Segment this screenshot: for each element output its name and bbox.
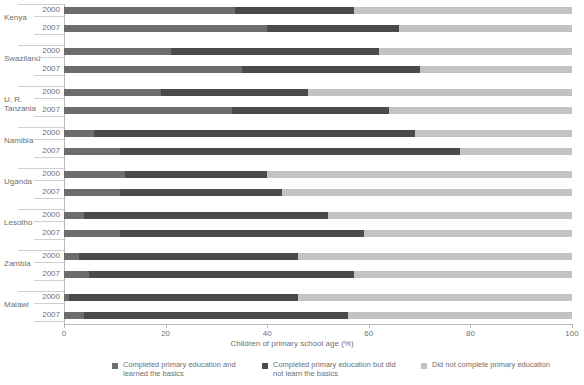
bar-segment-completed-learned[interactable] [64,189,120,196]
stacked-bar[interactable] [64,212,572,219]
bar-segment-completed-not-learned[interactable] [79,253,297,260]
stacked-bar[interactable] [64,7,572,14]
year-label: 2000 [34,5,60,14]
bar-segment-did-not-complete[interactable] [354,271,572,278]
bar-segment-completed-learned[interactable] [64,312,84,319]
chart-row: 2000 [0,291,584,309]
chart-row: 2007 [0,104,584,122]
bar-segment-completed-learned[interactable] [64,212,84,219]
year-underline [34,98,64,99]
bar-segment-did-not-complete[interactable] [399,25,572,32]
bar-segment-completed-not-learned[interactable] [69,294,298,301]
bar-segment-completed-learned[interactable] [64,48,171,55]
bar-segment-did-not-complete[interactable] [389,107,572,114]
bar-segment-did-not-complete[interactable] [298,253,572,260]
bar-segment-did-not-complete[interactable] [354,7,572,14]
bar-segment-did-not-complete[interactable] [298,294,572,301]
legend-swatch-icon [112,363,118,369]
stacked-bar[interactable] [64,312,572,319]
bar-segment-completed-learned[interactable] [64,107,232,114]
bar-segment-did-not-complete[interactable] [308,89,572,96]
bar-segment-completed-learned[interactable] [64,271,89,278]
bar-segment-completed-learned[interactable] [64,148,120,155]
bar-segment-completed-learned[interactable] [64,25,267,32]
chart-row: 2000 [0,209,584,227]
bar-segment-completed-not-learned[interactable] [125,171,267,178]
stacked-bar[interactable] [64,130,572,137]
year-label: 2000 [34,292,60,301]
bar-segment-completed-not-learned[interactable] [120,230,364,237]
bar-segment-completed-not-learned[interactable] [94,130,414,137]
bar-segment-completed-not-learned[interactable] [84,312,348,319]
year-label: 2007 [34,105,60,114]
year-underline [34,75,64,76]
year-label: 2000 [34,46,60,55]
bar-segment-completed-not-learned[interactable] [171,48,379,55]
year-underline [34,34,64,35]
legend-swatch-icon [262,363,268,369]
x-tick [572,325,573,328]
country-group: Swaziland20002007 [0,45,584,81]
country-group: Zambia20002007 [0,250,584,286]
chart-row: 2007 [0,268,584,286]
bar-segment-completed-not-learned[interactable] [89,271,353,278]
x-axis-title: Children of primary school age (%) [0,339,584,348]
bar-segment-completed-not-learned[interactable] [235,7,354,14]
stacked-bar[interactable] [64,171,572,178]
bar-segment-did-not-complete[interactable] [364,230,572,237]
stacked-bar[interactable] [64,25,572,32]
country-group: Namibia20002007 [0,127,584,163]
bar-segment-completed-not-learned[interactable] [120,189,283,196]
bar-segment-completed-learned[interactable] [64,7,235,14]
bar-segment-completed-not-learned[interactable] [232,107,389,114]
chart-row: 2007 [0,227,584,245]
bar-segment-completed-not-learned[interactable] [84,212,328,219]
bar-segment-did-not-complete[interactable] [379,48,572,55]
bar-segment-did-not-complete[interactable] [282,189,572,196]
year-label: 2007 [34,146,60,155]
bar-segment-completed-learned[interactable] [64,89,161,96]
bar-segment-did-not-complete[interactable] [267,171,572,178]
stacked-bar[interactable] [64,89,572,96]
bar-segment-completed-not-learned[interactable] [267,25,399,32]
stacked-bar[interactable] [64,189,572,196]
stacked-bar[interactable] [64,66,572,73]
year-underline [34,180,64,181]
bar-segment-completed-learned[interactable] [64,130,94,137]
bar-segment-completed-learned[interactable] [64,66,242,73]
year-label: 2000 [34,87,60,96]
bar-segment-completed-learned[interactable] [64,230,120,237]
stacked-bar[interactable] [64,48,572,55]
year-underline [34,57,64,58]
bar-segment-did-not-complete[interactable] [420,66,572,73]
year-label: 2000 [34,169,60,178]
year-label: 2000 [34,251,60,260]
year-underline [34,262,64,263]
bar-segment-did-not-complete[interactable] [348,312,572,319]
stacked-bar[interactable] [64,230,572,237]
year-label: 2007 [34,228,60,237]
x-tick-label: 40 [252,329,282,338]
bar-segment-completed-not-learned[interactable] [120,148,460,155]
legend-label: Did not complete primary education [432,360,557,369]
chart-row: 2007 [0,22,584,40]
x-tick [64,325,65,328]
stacked-bar[interactable] [64,148,572,155]
bar-segment-completed-learned[interactable] [64,171,125,178]
year-label: 2007 [34,23,60,32]
bar-segment-completed-not-learned[interactable] [161,89,308,96]
year-label: 2007 [34,64,60,73]
stacked-bar[interactable] [64,294,572,301]
year-label: 2000 [34,210,60,219]
bar-segment-completed-learned[interactable] [64,253,79,260]
bar-segment-did-not-complete[interactable] [460,148,572,155]
bar-segment-did-not-complete[interactable] [328,212,572,219]
chart-row: 2000 [0,45,584,63]
chart-row: 2007 [0,63,584,81]
stacked-bar[interactable] [64,271,572,278]
stacked-bar[interactable] [64,107,572,114]
stacked-bar[interactable] [64,253,572,260]
country-group: Lesotho20002007 [0,209,584,245]
bar-segment-did-not-complete[interactable] [415,130,572,137]
bar-segment-completed-not-learned[interactable] [242,66,420,73]
